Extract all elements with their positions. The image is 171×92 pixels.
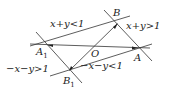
point-label-B1: B1	[63, 76, 75, 89]
line-through-B-A	[104, 10, 152, 61]
diagram-canvas: x+y<1 x+y>1 −x−y>1 −x−y<1 B A1 O A B1	[0, 0, 171, 92]
point-label-B: B	[113, 8, 120, 18]
region-label-top-left: x+y<1	[50, 19, 84, 29]
point-label-O: O	[91, 49, 99, 59]
geometry-lines	[0, 0, 171, 92]
region-label-bottom-left: −x−y>1	[6, 64, 49, 74]
region-label-bottom-right: −x−y<1	[80, 61, 123, 71]
arrow-B	[113, 23, 118, 29]
region-label-top-right: x+y>1	[126, 21, 160, 31]
point-label-A1: A1	[36, 47, 48, 60]
point-label-A: A	[134, 53, 141, 63]
